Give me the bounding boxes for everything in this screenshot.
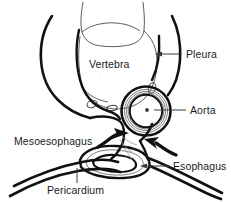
anatomical-diagram: Vertebra Pleura Aorta Mesoesophagus Esop…	[0, 0, 231, 202]
label-aorta: Aorta	[190, 105, 216, 116]
label-mesoesophagus: Mesoesophagus	[14, 136, 92, 147]
pleura-right-line	[168, 16, 180, 95]
label-pericardium: Pericardium	[47, 185, 104, 196]
mesoesophagus-arrow-right	[144, 137, 176, 155]
label-pleura: Pleura	[186, 49, 217, 60]
label-esophagus: Esophagus	[173, 161, 226, 172]
label-vertebra: Vertebra	[89, 59, 130, 70]
